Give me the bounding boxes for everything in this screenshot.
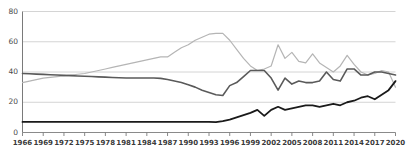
data-series-group xyxy=(23,33,396,122)
y-axis-tick-label: 0 xyxy=(2,129,18,137)
y-axis-tick-label: 40 xyxy=(2,68,18,76)
gridlines xyxy=(23,12,396,133)
x-axis-tick-label: 2020 xyxy=(384,139,408,148)
y-axis-tick-label: 80 xyxy=(2,8,18,16)
y-axis-tick-label: 60 xyxy=(2,38,18,46)
series-line xyxy=(23,69,396,95)
x-axis-tick-marks xyxy=(23,133,396,137)
series-line xyxy=(23,81,396,122)
y-axis-tick-label: 20 xyxy=(2,98,18,106)
